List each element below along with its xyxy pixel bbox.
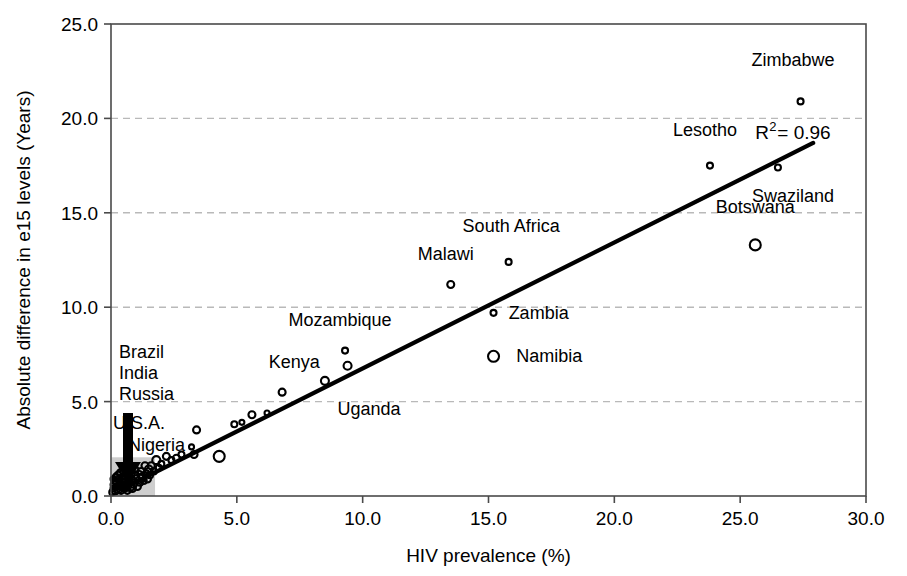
point-label-south-africa: South Africa (463, 216, 561, 236)
x-tick-label: 0.0 (98, 508, 124, 529)
chart-figure: 0.05.010.015.020.025.030.00.05.010.015.0… (0, 0, 907, 576)
y-tick-label: 20.0 (61, 108, 98, 129)
r-squared-base: R (755, 122, 769, 143)
x-tick-label: 10.0 (344, 508, 381, 529)
y-tick-label: 10.0 (61, 297, 98, 318)
point-label-zimbabwe: Zimbabwe (752, 50, 835, 70)
cluster-label-russia: Russia (119, 384, 175, 404)
x-tick-label: 5.0 (224, 508, 250, 529)
point-label-kenya: Kenya (269, 352, 321, 372)
x-tick-label: 15.0 (470, 508, 507, 529)
point-label-uganda: Uganda (338, 399, 402, 419)
r-squared-annotation: R2= 0.96 (755, 119, 830, 143)
cluster-label-u-s-a-: U.S.A. (113, 413, 165, 433)
x-tick-label: 20.0 (596, 508, 633, 529)
cluster-label-brazil: Brazil (119, 342, 164, 362)
point-label-zambia: Zambia (509, 303, 570, 323)
y-tick-label: 15.0 (61, 203, 98, 224)
point-label-botswana: Botswana (716, 197, 796, 217)
x-tick-label: 30.0 (848, 508, 885, 529)
x-tick-label: 25.0 (722, 508, 759, 529)
point-label-mozambique: Mozambique (288, 310, 391, 330)
scatter-chart-svg: 0.05.010.015.020.025.030.00.05.010.015.0… (0, 0, 907, 576)
y-tick-label: 25.0 (61, 14, 98, 35)
y-tick-label: 0.0 (72, 486, 98, 507)
r-squared-exponent: 2 (769, 119, 776, 134)
point-label-namibia: Namibia (516, 346, 583, 366)
r-squared-value: = 0.96 (777, 122, 830, 143)
y-tick-label: 5.0 (72, 392, 98, 413)
y-axis-title: Absolute difference in e15 levels (Years… (13, 90, 34, 429)
point-label-malawi: Malawi (418, 244, 474, 264)
cluster-label-nigeria: Nigeria (128, 435, 186, 455)
cluster-label-india: India (119, 363, 159, 383)
point-label-lesotho: Lesotho (673, 120, 737, 140)
x-axis-title: HIV prevalence (%) (406, 545, 571, 566)
